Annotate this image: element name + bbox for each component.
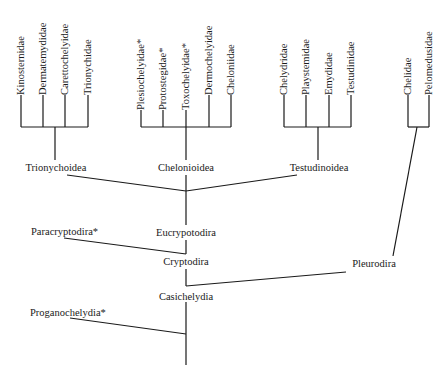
- label-eucryptodira: Eucrypotodira: [156, 227, 216, 239]
- label-cryptodira: Cryptodira: [163, 256, 209, 268]
- leaf-trionychidae: Trionychidae: [82, 39, 93, 95]
- leaf-carettochelyidae: Carettochelyidae: [59, 24, 70, 95]
- leaf-emydidae: Emydidae: [323, 52, 334, 95]
- label-testudinoidea: Testudinoidea: [290, 162, 349, 174]
- leaf-pelomedusidae: Pelomedusidae: [423, 31, 434, 95]
- testudinoidea-bracket: [284, 95, 351, 160]
- leaf-playstemidae: Playstemidae: [300, 39, 311, 95]
- leaf-chelidae: Chelidae: [402, 58, 413, 95]
- label-paracryptodira: Paracryptodira*: [31, 226, 98, 238]
- leaf-dermatemydidae: Dermatemydidae: [37, 23, 48, 95]
- casichelydia-branches: [70, 269, 346, 365]
- trionychoidea-bracket: [21, 95, 88, 160]
- leaf-protostegidae: Protostegidae*: [157, 48, 168, 110]
- cryptodira-branches: [64, 238, 186, 254]
- leaf-dermochelyidae: Dermochelyidae: [203, 26, 214, 95]
- label-chelonioidea: Chelonioidea: [158, 162, 214, 174]
- leaf-kinosternidae: Kinosternidae: [15, 36, 26, 95]
- label-casichelydia: Casichelydia: [159, 291, 213, 303]
- label-proganochelydia: Proganochelydia*: [30, 307, 106, 319]
- label-pleurodira: Pleurodira: [352, 258, 396, 270]
- label-trionychoidea: Trionychoidea: [26, 162, 87, 174]
- leaf-cheloniidae: Cheloniidae: [225, 44, 236, 95]
- leaf-chelydridae: Chelydridae: [278, 44, 289, 95]
- leaf-plesiochelyidae: Plesiochelyidae*: [135, 39, 146, 110]
- pleurodira-bracket: [393, 95, 429, 256]
- leaf-toxochelyidae: Toxochelyidae*: [180, 43, 191, 110]
- leaf-testudinidae: Testudinidae: [345, 42, 356, 96]
- eucryptodira-branches: [67, 175, 297, 225]
